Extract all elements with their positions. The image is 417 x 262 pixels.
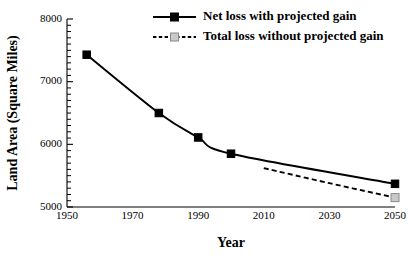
legend-marker-net-loss xyxy=(171,13,179,21)
y-tick-label: 8000 xyxy=(40,12,63,24)
legend-label-net-loss: Net loss with projected gain xyxy=(203,8,357,23)
legend: Net loss with projected gain Total loss … xyxy=(153,8,384,43)
data-marker-layer xyxy=(83,51,399,202)
data-marker-s0-p2 xyxy=(194,134,202,142)
line-chart: 5000600070008000 19501970199020102030205… xyxy=(0,0,417,262)
y-tick-label: 6000 xyxy=(40,137,63,149)
data-marker-s0-p0 xyxy=(83,51,91,59)
x-axis-tick-labels: 195019701990201020302050 xyxy=(56,209,407,221)
y-tick-label: 7000 xyxy=(40,74,63,86)
chart-container: 5000600070008000 19501970199020102030205… xyxy=(0,0,417,262)
data-marker-s0-p3 xyxy=(227,150,235,158)
x-tick-label: 1990 xyxy=(187,209,210,221)
x-axis-title: Year xyxy=(217,235,245,250)
x-tick-label: 2010 xyxy=(253,209,276,221)
legend-label-total-loss: Total loss without projected gain xyxy=(203,28,384,43)
y-axis-title: Land Area (Square Miles) xyxy=(5,35,21,191)
data-series-layer xyxy=(87,55,395,198)
data-marker-s1-p2 xyxy=(391,194,399,202)
x-tick-label: 2050 xyxy=(384,209,407,221)
data-marker-s0-p1 xyxy=(155,109,163,117)
y-axis-minor-ticks xyxy=(67,25,71,200)
data-marker-s0-p4 xyxy=(391,180,399,188)
x-tick-label: 1950 xyxy=(56,209,79,221)
legend-marker-total-loss xyxy=(171,33,179,41)
y-axis-tick-labels: 5000600070008000 xyxy=(40,12,63,212)
plot-axes xyxy=(67,19,395,207)
series-line-0 xyxy=(87,55,395,184)
x-tick-label: 2030 xyxy=(318,209,341,221)
x-tick-label: 1970 xyxy=(122,209,145,221)
